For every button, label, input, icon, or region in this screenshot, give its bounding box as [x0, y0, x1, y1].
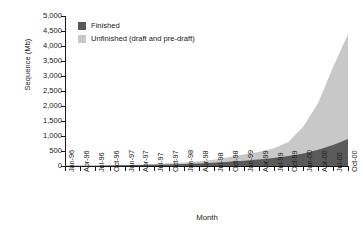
x-axis-tick-label: Jan-97	[128, 150, 136, 172]
x-axis-tick-label: Apr-96	[83, 150, 91, 172]
legend-label-unfinished: Unfinished (draft and pre-draft)	[91, 34, 195, 43]
x-axis-tick-label: Apr-99	[262, 150, 270, 172]
x-axis-tick-label: Oct-98	[232, 150, 240, 172]
x-axis-tick-label: Apr-98	[202, 150, 210, 172]
x-axis-tick-label: Jul-97	[157, 152, 165, 172]
x-axis-title: Month	[65, 213, 349, 222]
legend-label-finished: Finished	[91, 21, 120, 30]
x-axis-tick-label: Oct-00	[351, 150, 359, 172]
x-axis-tick-label: Jul-98	[217, 152, 225, 172]
legend-swatch-finished	[78, 22, 86, 30]
legend-item-finished: Finished	[78, 20, 195, 31]
x-axis-tick-label: Jan-96	[68, 150, 76, 172]
x-axis-tick-label: Jul-00	[336, 152, 344, 172]
sequence-growth-area-chart: Sequence (Mb) 5,0004,5004,0003,5003,0002…	[0, 0, 363, 234]
x-axis-tick-label: Oct-97	[172, 150, 180, 172]
x-axis-tick-label: Oct-96	[113, 150, 121, 172]
x-axis-tick-label: Jan-98	[187, 150, 195, 172]
x-axis-tick-label: Jan-99	[247, 150, 255, 172]
legend-swatch-unfinished	[78, 35, 86, 43]
x-axis-tick-label: Oct-99	[291, 150, 299, 172]
chart-legend: Finished Unfinished (draft and pre-draft…	[78, 20, 195, 46]
x-axis-tick-label: Jan-00	[306, 150, 314, 172]
legend-item-unfinished: Unfinished (draft and pre-draft)	[78, 33, 195, 44]
x-axis-tick-label: Jul-99	[277, 152, 285, 172]
x-axis-tick-label: Apr-00	[321, 150, 329, 172]
x-axis-tick-label: Apr-97	[142, 150, 150, 172]
x-axis-tick-label: Jul-96	[98, 152, 106, 172]
